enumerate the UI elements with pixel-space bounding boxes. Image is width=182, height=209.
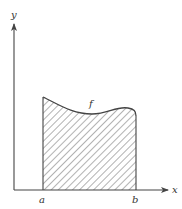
shaded-area-region (43, 97, 136, 190)
y-axis-label: y (10, 9, 17, 20)
x-axis-label: x (172, 184, 178, 195)
area-under-curve-diagram: y x f a b (0, 0, 182, 209)
interval-label-b: b (132, 194, 138, 205)
interval-label-a: a (39, 194, 45, 205)
function-label-f: f (88, 98, 95, 109)
